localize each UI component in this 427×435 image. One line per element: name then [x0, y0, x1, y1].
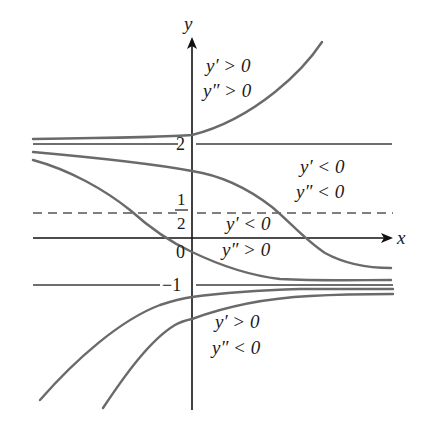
curve-above-2	[33, 42, 322, 139]
region-mid-lower-ydoubleprime: y″ > 0	[220, 239, 271, 260]
region-mid-upper-ydoubleprime: y″ < 0	[294, 181, 345, 202]
tick-label-half-num: 1	[177, 190, 186, 209]
tick-label-half-den: 2	[177, 214, 186, 233]
solution-curves-diagram: y x 2 1 2 0 −1 y′ > 0 y″ > 0 y′ < 0 y″ <…	[0, 0, 427, 435]
tick-label-2: 2	[176, 134, 185, 154]
region-above-2-yprime: y′ > 0	[204, 55, 251, 76]
curve-s-left	[33, 160, 391, 280]
y-axis-label: y	[182, 13, 193, 34]
region-above-2-ydoubleprime: y″ > 0	[201, 80, 252, 101]
region-below-minus1-ydoubleprime: y″ < 0	[210, 337, 261, 358]
origin-label: 0	[176, 242, 185, 262]
tick-label-minus1: −1	[162, 275, 181, 295]
region-mid-lower-yprime: y′ < 0	[224, 213, 271, 234]
region-mid-upper-yprime: y′ < 0	[298, 156, 345, 177]
region-below-minus1-yprime: y′ > 0	[213, 311, 260, 332]
x-axis-label: x	[396, 227, 406, 248]
